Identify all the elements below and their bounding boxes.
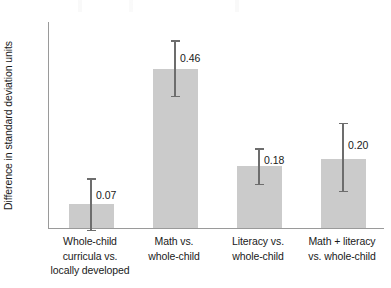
x-category-label-line: Whole-child (48, 234, 132, 249)
bar-value-label: 0.18 (264, 155, 284, 166)
x-category-label: Literacy vs.whole-child (216, 234, 300, 263)
error-bar-cap-upper (87, 178, 96, 179)
x-category-label-line: curricula vs. (48, 249, 132, 264)
x-category-label-line: Math + literacy (300, 234, 384, 249)
error-bar-line (342, 124, 343, 192)
x-category-label-line: Math vs. (132, 234, 216, 249)
bar-value-label: 0.20 (348, 140, 368, 151)
error-bar-cap-upper (255, 148, 264, 149)
chart-screenshot: Difference in standard deviation units 0… (0, 0, 391, 288)
scan-artifact (0, 0, 391, 12)
bar-group: 0.46 (153, 22, 198, 228)
x-category-label-line: locally developed (48, 263, 132, 278)
error-bar-cap-lower (339, 191, 348, 192)
error-bar-cap-lower (87, 230, 96, 231)
x-category-label: Whole-childcurricula vs.locally develope… (48, 234, 132, 278)
error-bar-line (90, 179, 91, 231)
error-bar-cap-lower (255, 184, 264, 185)
x-category-label-line: whole-child (216, 249, 300, 264)
bar-value-label: 0.46 (180, 53, 200, 64)
error-bar-line (258, 149, 259, 185)
error-bar-line (174, 41, 175, 96)
y-axis-title: Difference in standard deviation units (2, 22, 16, 229)
bar-value-label: 0.07 (96, 190, 116, 201)
x-category-label: Math vs.whole-child (132, 234, 216, 263)
plot-area: 0.070.460.180.20 (48, 22, 384, 229)
error-bar-cap-lower (171, 96, 180, 97)
error-bar-cap-upper (171, 40, 180, 41)
x-category-label: Math + literacyvs. whole-child (300, 234, 384, 263)
bar-group: 0.18 (237, 22, 282, 228)
x-category-label-line: vs. whole-child (300, 249, 384, 264)
error-bar-cap-upper (339, 123, 348, 124)
x-category-label-line: whole-child (132, 249, 216, 264)
bar-group: 0.20 (321, 22, 366, 228)
bar-group: 0.07 (69, 22, 114, 228)
x-category-label-line: Literacy vs. (216, 234, 300, 249)
